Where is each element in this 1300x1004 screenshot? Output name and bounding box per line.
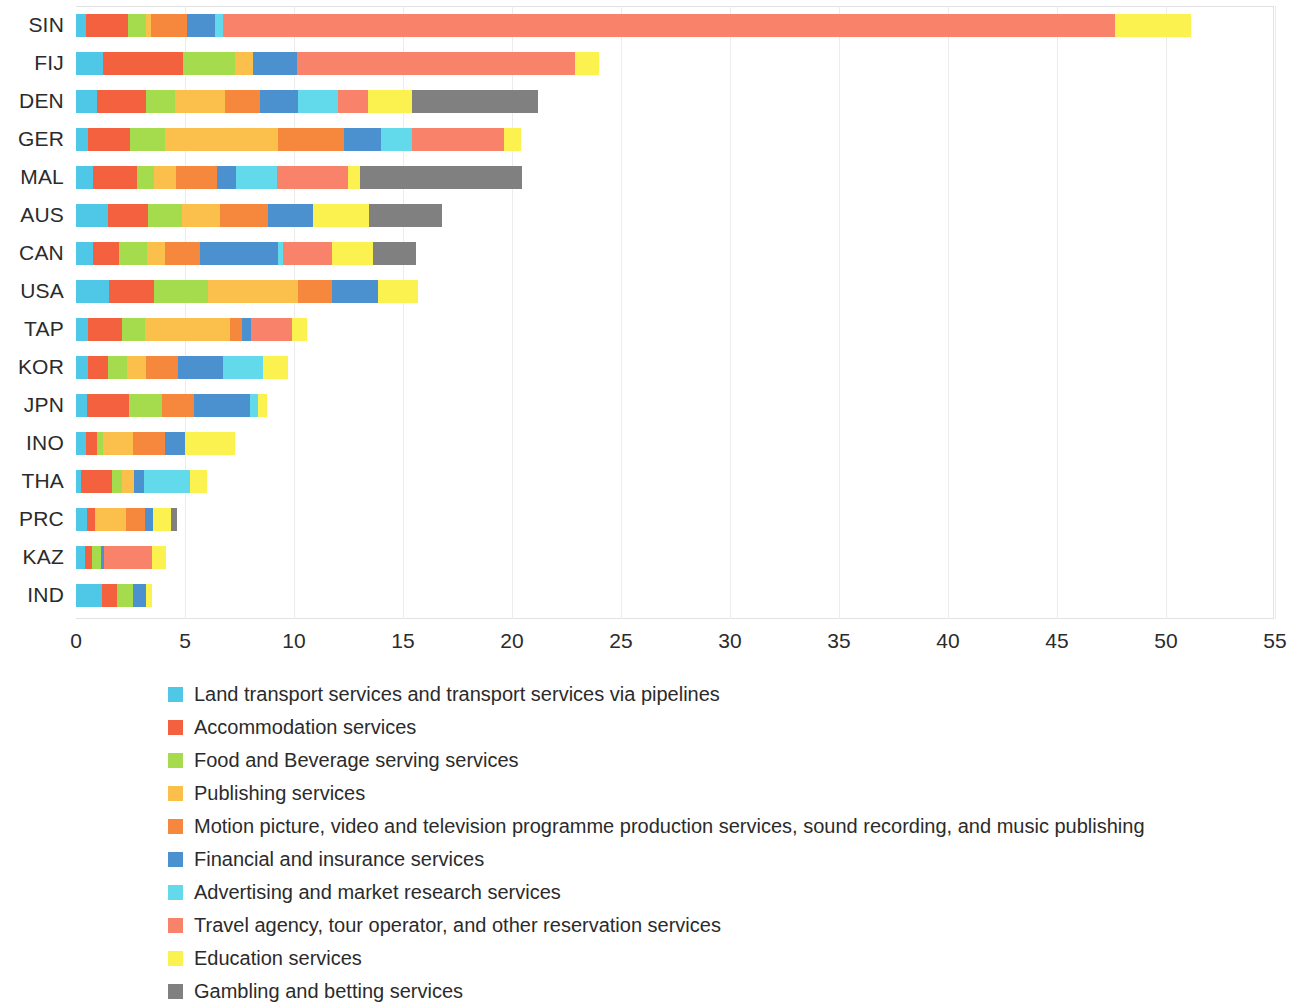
bar-segment[interactable]: [76, 394, 87, 417]
bar-segment[interactable]: [93, 166, 137, 189]
bar-segment[interactable]: [162, 394, 194, 417]
legend-item[interactable]: Accommodation services: [168, 711, 1288, 744]
bar-segment[interactable]: [151, 14, 187, 37]
bar-segment[interactable]: [194, 394, 251, 417]
bar-segment[interactable]: [144, 470, 191, 493]
bar-segment[interactable]: [88, 318, 122, 341]
bar-segment[interactable]: [338, 90, 369, 113]
stacked-bar[interactable]: [76, 90, 538, 113]
bar-segment[interactable]: [369, 204, 442, 227]
bar-segment[interactable]: [253, 52, 298, 75]
bar-segment[interactable]: [146, 356, 179, 379]
bar-segment[interactable]: [122, 318, 145, 341]
stacked-bar[interactable]: [76, 394, 267, 417]
bar-segment[interactable]: [381, 128, 412, 151]
bar-segment[interactable]: [263, 356, 288, 379]
bar-segment[interactable]: [236, 166, 276, 189]
legend-item[interactable]: Gambling and betting services: [168, 975, 1288, 1004]
bar-segment[interactable]: [298, 280, 332, 303]
bar-segment[interactable]: [102, 584, 117, 607]
bar-segment[interactable]: [128, 14, 145, 37]
bar-segment[interactable]: [76, 508, 87, 531]
bar-segment[interactable]: [87, 394, 130, 417]
legend-item[interactable]: Publishing services: [168, 777, 1288, 810]
bar-segment[interactable]: [145, 508, 154, 531]
bar-segment[interactable]: [133, 432, 166, 455]
bar-segment[interactable]: [268, 204, 313, 227]
bar-segment[interactable]: [76, 52, 103, 75]
bar-segment[interactable]: [368, 90, 412, 113]
bar-segment[interactable]: [504, 128, 520, 151]
bar-segment[interactable]: [313, 204, 370, 227]
bar-segment[interactable]: [242, 318, 252, 341]
bar-segment[interactable]: [86, 14, 129, 37]
stacked-bar[interactable]: [76, 470, 207, 493]
bar-segment[interactable]: [165, 242, 200, 265]
bar-segment[interactable]: [146, 584, 153, 607]
bar-segment[interactable]: [344, 128, 381, 151]
bar-segment[interactable]: [223, 14, 1115, 37]
stacked-bar[interactable]: [76, 128, 521, 151]
stacked-bar[interactable]: [76, 166, 522, 189]
bar-segment[interactable]: [225, 90, 260, 113]
bar-segment[interactable]: [360, 166, 521, 189]
bar-segment[interactable]: [220, 204, 268, 227]
bar-segment[interactable]: [148, 204, 182, 227]
bar-segment[interactable]: [108, 356, 128, 379]
bar-segment[interactable]: [230, 318, 242, 341]
bar-segment[interactable]: [1115, 14, 1191, 37]
bar-segment[interactable]: [208, 280, 298, 303]
bar-segment[interactable]: [109, 280, 155, 303]
bar-segment[interactable]: [88, 128, 131, 151]
bar-segment[interactable]: [176, 166, 216, 189]
bar-segment[interactable]: [187, 14, 215, 37]
bar-segment[interactable]: [185, 432, 235, 455]
bar-segment[interactable]: [154, 280, 207, 303]
bar-segment[interactable]: [119, 242, 147, 265]
bar-segment[interactable]: [104, 546, 152, 569]
stacked-bar[interactable]: [76, 546, 166, 569]
bar-segment[interactable]: [292, 318, 307, 341]
bar-segment[interactable]: [332, 280, 378, 303]
bar-segment[interactable]: [130, 128, 165, 151]
bar-segment[interactable]: [103, 432, 132, 455]
bar-segment[interactable]: [412, 128, 505, 151]
bar-segment[interactable]: [152, 546, 166, 569]
bar-segment[interactable]: [76, 318, 88, 341]
bar-segment[interactable]: [171, 508, 178, 531]
bar-segment[interactable]: [76, 128, 88, 151]
bar-segment[interactable]: [97, 90, 146, 113]
bar-segment[interactable]: [117, 584, 132, 607]
bar-segment[interactable]: [332, 242, 373, 265]
bar-segment[interactable]: [223, 356, 263, 379]
bar-segment[interactable]: [76, 242, 93, 265]
bar-segment[interactable]: [146, 90, 175, 113]
bar-segment[interactable]: [165, 128, 277, 151]
bar-segment[interactable]: [88, 356, 108, 379]
legend-item[interactable]: Financial and insurance services: [168, 843, 1288, 876]
bar-segment[interactable]: [86, 432, 97, 455]
bar-segment[interactable]: [190, 470, 206, 493]
bar-segment[interactable]: [133, 584, 146, 607]
bar-segment[interactable]: [76, 166, 93, 189]
bar-segment[interactable]: [76, 204, 108, 227]
bar-segment[interactable]: [217, 166, 237, 189]
bar-segment[interactable]: [153, 508, 170, 531]
stacked-bar[interactable]: [76, 584, 152, 607]
bar-segment[interactable]: [373, 242, 416, 265]
bar-segment[interactable]: [283, 242, 332, 265]
stacked-bar[interactable]: [76, 204, 442, 227]
bar-segment[interactable]: [137, 166, 154, 189]
stacked-bar[interactable]: [76, 508, 177, 531]
bar-segment[interactable]: [412, 90, 538, 113]
bar-segment[interactable]: [76, 546, 85, 569]
stacked-bar[interactable]: [76, 356, 288, 379]
bar-segment[interactable]: [348, 166, 360, 189]
bar-segment[interactable]: [145, 318, 230, 341]
bar-segment[interactable]: [178, 356, 223, 379]
legend-item[interactable]: Education services: [168, 942, 1288, 975]
bar-segment[interactable]: [76, 584, 102, 607]
bar-segment[interactable]: [378, 280, 418, 303]
bar-segment[interactable]: [103, 52, 183, 75]
legend-item[interactable]: Motion picture, video and television pro…: [168, 810, 1288, 843]
